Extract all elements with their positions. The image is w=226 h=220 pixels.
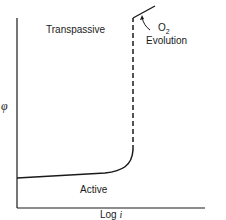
x-axis-label: Log i bbox=[100, 209, 122, 220]
o2-text: O bbox=[158, 22, 166, 33]
o2-evolution-line bbox=[133, 6, 155, 18]
transpassive-label: Transpassive bbox=[46, 24, 105, 36]
x-axis-label-var: i bbox=[119, 209, 122, 220]
polarization-diagram bbox=[0, 0, 226, 220]
active-label: Active bbox=[80, 184, 107, 196]
y-axis-label: φ bbox=[1, 100, 8, 112]
o2-subscript: 2 bbox=[166, 28, 170, 35]
active-curve bbox=[17, 150, 133, 178]
evolution-label: Evolution bbox=[146, 35, 187, 47]
arrowhead-icon bbox=[140, 15, 144, 20]
x-axis-label-prefix: Log bbox=[100, 209, 119, 220]
